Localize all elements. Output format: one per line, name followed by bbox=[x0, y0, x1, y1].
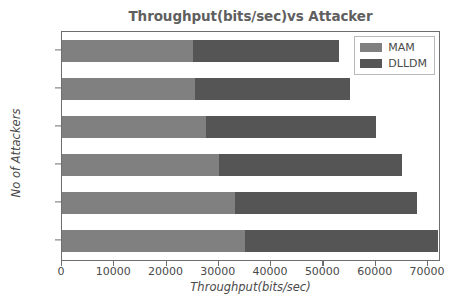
bar-row bbox=[62, 230, 438, 252]
x-tick-mark bbox=[166, 261, 167, 266]
bar-segment-dlldm bbox=[245, 230, 438, 252]
x-tick-label: 0 bbox=[58, 265, 65, 278]
x-tick-label: 20000 bbox=[148, 265, 183, 278]
bar-segment-mam bbox=[62, 78, 195, 100]
x-tick-label: 70000 bbox=[409, 265, 444, 278]
x-tick-mark bbox=[322, 261, 323, 266]
bar-segment-dlldm bbox=[193, 40, 339, 62]
plot-area: MAMDLLDM bbox=[61, 31, 440, 261]
bar-segment-dlldm bbox=[219, 154, 402, 176]
bar-segment-mam bbox=[62, 116, 206, 138]
x-tick-mark bbox=[375, 261, 376, 266]
bar-row bbox=[62, 154, 402, 176]
chart-legend: MAMDLLDM bbox=[354, 36, 435, 75]
legend-entry: MAM bbox=[360, 41, 427, 54]
x-tick-mark bbox=[61, 261, 62, 266]
legend-swatch-icon bbox=[360, 59, 382, 68]
legend-label: MAM bbox=[388, 41, 415, 54]
x-tick-label: 50000 bbox=[305, 265, 340, 278]
bar-segment-mam bbox=[62, 40, 193, 62]
bar-segment-dlldm bbox=[195, 78, 349, 100]
chart-title: Throughput(bits/sec)vs Attacker bbox=[61, 8, 440, 24]
x-tick-mark bbox=[427, 261, 428, 266]
bar-segment-dlldm bbox=[206, 116, 376, 138]
legend-label: DLLDM bbox=[388, 57, 427, 70]
bar-row bbox=[62, 116, 376, 138]
legend-swatch-icon bbox=[360, 43, 382, 52]
x-tick-label: 30000 bbox=[200, 265, 235, 278]
x-tick-mark bbox=[218, 261, 219, 266]
bar-segment-dlldm bbox=[235, 192, 418, 214]
bar-segment-mam bbox=[62, 230, 245, 252]
bar-row bbox=[62, 192, 417, 214]
x-tick-mark bbox=[113, 261, 114, 266]
x-axis-label: Throughput(bits/sec) bbox=[61, 280, 440, 294]
bar-row bbox=[62, 78, 350, 100]
bar-row bbox=[62, 40, 339, 62]
y-axis-label: No of Attackers bbox=[9, 93, 23, 213]
x-tick-label: 60000 bbox=[357, 265, 392, 278]
x-tick-label: 10000 bbox=[96, 265, 131, 278]
bar-segment-mam bbox=[62, 154, 219, 176]
x-tick-mark bbox=[270, 261, 271, 266]
chart-figure: Throughput(bits/sec)vs Attacker No of At… bbox=[0, 0, 457, 307]
legend-entry: DLLDM bbox=[360, 57, 427, 70]
x-tick-label: 40000 bbox=[253, 265, 288, 278]
bar-segment-mam bbox=[62, 192, 235, 214]
